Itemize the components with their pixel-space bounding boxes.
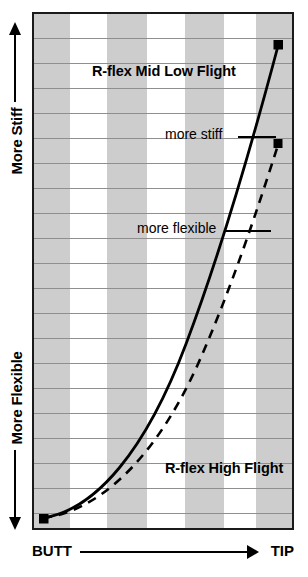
chart-page: More Stiff More Flexible (0, 0, 308, 577)
x-axis: BUTT TIP (32, 540, 294, 564)
x-axis-label-tip: TIP (271, 542, 294, 559)
x-axis-arrow-icon (80, 551, 248, 553)
x-axis-label-butt: BUTT (32, 542, 72, 559)
callout-label-more-stiff: more stiff (165, 126, 222, 142)
series-label-high-flight: R-flex High Flight (165, 460, 283, 476)
callout-label-more-flexible: more flexible (137, 220, 216, 236)
more-flexible-arrow-icon (14, 450, 16, 518)
y-axis: More Stiff More Flexible (0, 0, 32, 577)
plot-area: R-flex Mid Low Flight more stiff more fl… (32, 12, 294, 530)
callout-leader-more-stiff (238, 136, 276, 138)
y-axis-label-more-stiff: More Stiff (8, 143, 25, 175)
y-axis-label-more-flexible: More Flexible (8, 413, 25, 445)
callout-leader-more-flexible (226, 230, 271, 232)
more-stiff-arrow-icon (14, 34, 16, 102)
series-label-mid-low-flight: R-flex Mid Low Flight (92, 63, 236, 79)
